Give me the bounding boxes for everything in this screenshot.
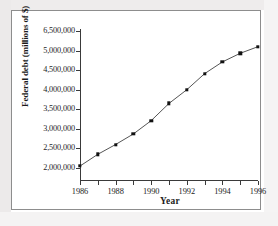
y-tick-label: 3,500,000	[43, 105, 75, 113]
y-tick-label: 2,500,000	[43, 144, 75, 152]
y-axis-title: Federal debt (millions of $)	[20, 6, 30, 107]
page-margin-left	[0, 0, 11, 226]
y-tick-label: 4,500,000	[43, 66, 75, 74]
y-tick-label: 5,000,000	[43, 46, 75, 54]
data-point-1992	[185, 88, 188, 91]
data-point-1994	[221, 60, 224, 63]
data-point-1996	[256, 45, 259, 48]
data-point-1991	[167, 102, 170, 105]
y-tick-label: 6,500,000	[43, 27, 75, 35]
x-tick-label: 1996	[250, 187, 266, 196]
data-point-1988	[114, 143, 117, 146]
data-point-1990	[149, 119, 152, 122]
data-point-1993	[203, 72, 206, 75]
scanned-page: Federal debt (millions of $) Year 2,000,…	[0, 0, 278, 226]
page-margin-top	[0, 0, 278, 10]
y-tick-label: 4,000,000	[43, 86, 75, 94]
data-point-1989	[132, 132, 135, 135]
data-point-1995	[238, 52, 241, 55]
data-line	[80, 29, 260, 184]
y-tick-label: 2,000,000	[43, 164, 75, 172]
page-margin-bottom	[0, 212, 278, 226]
x-tick-label: 1988	[107, 187, 123, 196]
x-tick-label: 1990	[143, 187, 159, 196]
data-point-1987	[96, 153, 99, 156]
data-point-1986	[78, 164, 81, 167]
figure-frame: Federal debt (millions of $) Year 2,000,…	[11, 10, 261, 210]
y-tick-label: 3,000,000	[43, 125, 75, 133]
x-tick-label: 1994	[214, 187, 230, 196]
x-axis-title: Year	[80, 196, 260, 206]
x-tick-label: 1986	[72, 187, 88, 196]
x-tick-label: 1992	[179, 187, 195, 196]
plot-area: 2,000,0002,500,0003,000,0003,500,0004,00…	[80, 29, 260, 184]
